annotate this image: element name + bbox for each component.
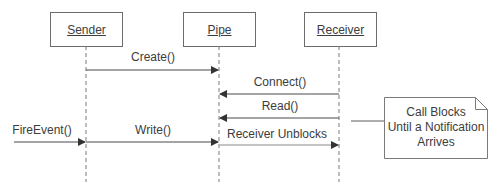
- actor-receiver: Receiver: [304, 12, 377, 47]
- actor-pipe: Pipe: [183, 12, 256, 47]
- note: Call Blocks Until a Notification Arrives: [384, 97, 488, 159]
- actor-sender: Sender: [50, 12, 123, 47]
- message-connect-label: Connect(): [254, 75, 307, 89]
- message-fireevent-label: FireEvent(): [12, 123, 71, 137]
- note-line-3: Arrives: [384, 135, 488, 150]
- message-write-label: Write(): [135, 123, 171, 137]
- message-receiver-unblocks-label: Receiver Unblocks: [227, 127, 327, 141]
- note-text: Call Blocks Until a Notification Arrives: [384, 105, 488, 150]
- actor-receiver-label: Receiver: [317, 23, 364, 37]
- message-read-label: Read(): [262, 99, 299, 113]
- actor-sender-label: Sender: [67, 23, 106, 37]
- actor-pipe-label: Pipe: [207, 23, 231, 37]
- message-create-label: Create(): [131, 50, 175, 64]
- note-line-1: Call Blocks: [384, 105, 488, 120]
- note-line-2: Until a Notification: [384, 120, 488, 135]
